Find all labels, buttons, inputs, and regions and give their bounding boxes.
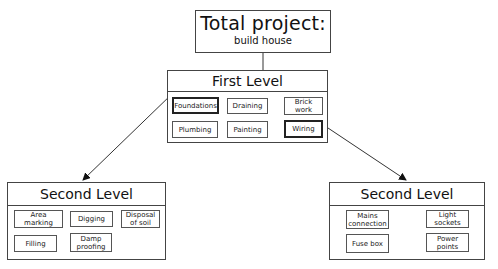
task-fuse-box: Fuse box (346, 234, 389, 253)
foundations-arrow (83, 92, 174, 180)
task-power-points: Power points (426, 233, 469, 252)
second-level-right-title: Second Level (330, 183, 484, 206)
task-digging: Digging (70, 211, 113, 227)
task-mains-connection: Mains connection (346, 210, 389, 229)
task-wiring: Wiring (284, 120, 323, 138)
task-filling: Filling (14, 235, 57, 252)
second-level-right-panel: Second Level Mains connection Light sock… (329, 182, 485, 260)
task-damp-proofing: Damp proofing (70, 233, 112, 252)
task-draining: Draining (227, 98, 268, 114)
first-level-panel: First Level Foundations Draining Brick w… (167, 70, 328, 143)
second-level-left-panel: Second Level Area marking Digging Dispos… (7, 182, 166, 260)
root-node: Total project: build house (195, 10, 331, 53)
task-plumbing: Plumbing (172, 121, 218, 138)
task-disposal-of-soil: Disposal of soil (121, 210, 160, 228)
task-foundations: Foundations (172, 97, 219, 114)
root-subtitle: build house (196, 34, 330, 48)
task-brick-work: Brick work (284, 97, 323, 115)
root-title: Total project: (196, 12, 330, 34)
task-area-marking: Area marking (14, 210, 63, 228)
first-level-title: First Level (168, 71, 327, 92)
second-level-left-title: Second Level (8, 183, 165, 206)
wiring-arrow (322, 124, 406, 180)
task-painting: Painting (227, 121, 268, 138)
task-light-sockets: Light sockets (426, 210, 469, 228)
